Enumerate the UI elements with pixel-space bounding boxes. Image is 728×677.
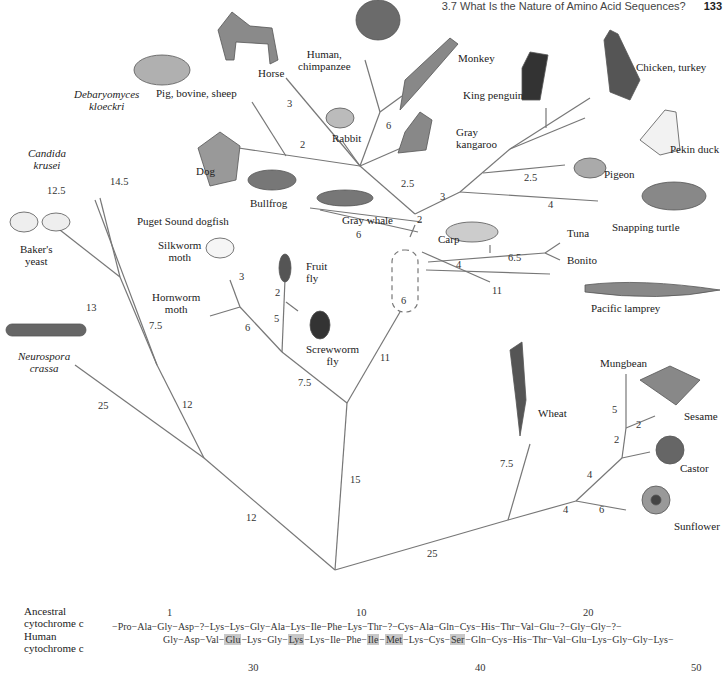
label-line: fly — [306, 272, 327, 284]
label-line: Baker's — [20, 243, 53, 255]
label-line: Human — [24, 630, 84, 642]
label-line: krusei — [28, 159, 66, 171]
branch-length: 2 — [636, 419, 641, 430]
branch-length: 3 — [239, 271, 244, 282]
label-hornworm-moth: Hornwormmoth — [152, 291, 200, 315]
label-line: Screwworm — [306, 343, 359, 355]
branch-length: 2 — [417, 214, 422, 225]
branch-length: 6 — [401, 295, 406, 306]
label-line: Neurospora — [18, 350, 70, 362]
label-horse: Horse — [258, 67, 284, 79]
pigeon-icon — [574, 158, 606, 178]
ancestral-sequence: −Pro−Ala−Gly−Asp−?−Lys−Lys−Gly−Ala−Lys−I… — [112, 621, 622, 632]
label-gray-kangaroo: Graykangaroo — [456, 126, 497, 150]
human-sequence: Gly−Asp−Val−Glu−Lys−Gly−Lys−Lys−Ile−Phe−… — [163, 634, 674, 645]
horse-icon — [218, 12, 278, 64]
branch-length: 3 — [440, 191, 445, 202]
chicken-turkey-icon — [604, 30, 640, 100]
amino-acid: Lys — [247, 634, 261, 645]
amino-acid: Lys — [592, 634, 606, 645]
amino-acid: Glu — [224, 634, 241, 645]
label-mungbean: Mungbean — [600, 357, 647, 369]
branch-length: 7.5 — [500, 458, 513, 469]
wheat-icon — [510, 342, 526, 436]
branch-length: 6.5 — [508, 252, 521, 263]
label-debaryomyces-kloeckri: Debaryomyceskloeckri — [74, 88, 139, 112]
label-dog: Dog — [196, 165, 215, 177]
label-neurospora-crassa: Neurosporacrassa — [18, 350, 70, 374]
organism-icons — [6, 0, 720, 514]
branch-length: 6 — [386, 120, 391, 131]
amino-acid: Glu — [571, 634, 586, 645]
castor-icon — [656, 436, 684, 464]
amino-acid: Ser — [450, 634, 465, 645]
label-carp: Carp — [438, 233, 459, 245]
label-pacific-lamprey: Pacific lamprey — [591, 302, 660, 314]
branch-length: 6 — [356, 229, 361, 240]
label-puget-sound-dogfish: Puget Sound dogfish — [137, 215, 229, 227]
ancestral-cytochrome-label: Ancestralcytochrome c — [24, 605, 84, 629]
amino-acid: Gln — [471, 634, 486, 645]
label-line: Hornworm — [152, 291, 200, 303]
branch-length: 14.5 — [110, 176, 128, 187]
sesame-icon — [640, 366, 700, 405]
label-line: kangaroo — [456, 138, 497, 150]
neurospora-icon — [6, 324, 86, 336]
branch-length: 2.5 — [401, 178, 414, 189]
position-marker: 30 — [248, 662, 259, 673]
label-line: Ancestral — [24, 605, 84, 617]
branch-length: 25 — [98, 400, 109, 411]
amino-acid: Gly — [267, 634, 282, 645]
label-line: cytochrome c — [24, 642, 84, 654]
label-fruit-fly: Fruitfly — [306, 260, 327, 284]
branch-length: 2.5 — [524, 172, 537, 183]
branch-length: 2 — [614, 434, 619, 445]
fruit-fly-icon — [279, 254, 291, 282]
branch-length: 25 — [427, 548, 438, 559]
amino-acid: Gly — [633, 634, 648, 645]
label-tuna: Tuna — [567, 227, 589, 239]
pig-icon — [134, 55, 190, 85]
label-line: moth — [158, 251, 201, 263]
label-silkworm-moth: Silkwormmoth — [158, 239, 201, 263]
king-penguin-icon — [522, 52, 548, 100]
position-marker: 50 — [691, 662, 702, 673]
label-rabbit: Rabbit — [332, 132, 361, 144]
branch-length: 7.5 — [298, 377, 311, 388]
screwworm-fly-icon — [310, 311, 330, 339]
amino-acid: Lys — [409, 634, 423, 645]
monkey-icon — [400, 38, 458, 110]
label-line: Debaryomyces — [74, 88, 139, 100]
branch-length: 7.5 — [149, 320, 162, 331]
label-line: crassa — [18, 362, 70, 374]
position-marker: 10 — [356, 607, 367, 618]
label-sesame: Sesame — [684, 410, 718, 422]
branch-length: 12 — [246, 512, 257, 523]
position-marker: 20 — [583, 607, 594, 618]
human-cytochrome-label: Humancytochrome c — [24, 630, 84, 654]
label-chicken-turkey: Chicken, turkey — [636, 61, 706, 73]
label-bonito: Bonito — [567, 254, 597, 266]
bullfrog-icon — [248, 170, 296, 190]
amino-acid: Met — [385, 634, 403, 645]
label-castor: Castor — [680, 462, 709, 474]
amino-acid: Cys — [492, 634, 508, 645]
amino-acid: Lys — [288, 634, 304, 645]
branch-length: 5 — [274, 313, 279, 324]
amino-acid: Gly — [163, 634, 178, 645]
label-line: kloeckri — [74, 100, 139, 112]
label-pigeon: Pigeon — [604, 168, 635, 180]
amino-acid: Asp — [184, 634, 200, 645]
branch-length: 6 — [599, 504, 604, 515]
label-line: Candida — [28, 147, 66, 159]
label-candida-krusei: Candidakrusei — [28, 147, 66, 171]
label-line: Gray — [456, 126, 497, 138]
dog-icon — [198, 132, 240, 186]
kangaroo-icon — [398, 112, 432, 153]
branch-length: 3 — [287, 98, 292, 109]
rabbit-icon — [326, 108, 354, 128]
amino-acid: Lys — [653, 634, 667, 645]
branch-length: 5 — [612, 404, 617, 415]
label-line: Human, — [298, 48, 351, 60]
branch-length: 6 — [245, 322, 250, 333]
